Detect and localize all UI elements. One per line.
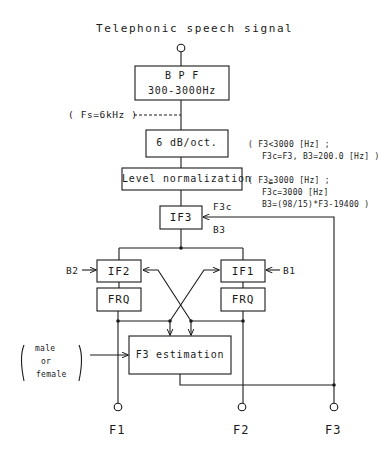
feedback-f1-to-if2 bbox=[143, 270, 191, 321]
bpf-label-line1: B P F bbox=[135, 70, 229, 81]
output-label-f3: F3 bbox=[325, 423, 341, 437]
if1-label: IF1 bbox=[221, 265, 265, 278]
feedback-f2-to-if1 bbox=[170, 270, 219, 321]
sampling-rate-note: ( Fs=6kHz ) bbox=[68, 109, 138, 120]
bpf-label-line2: 300-3000Hz bbox=[135, 85, 229, 96]
f3c-label: F3c bbox=[213, 201, 232, 212]
output-label-f1: F1 bbox=[109, 423, 125, 437]
rule2-line1: ( F3≧3000 [Hz] ; bbox=[248, 175, 330, 186]
wire-f3-output bbox=[180, 374, 334, 385]
if2-label: IF2 bbox=[97, 265, 141, 278]
level-normalization-label: Level normalization bbox=[122, 173, 242, 184]
output-label-f2: F2 bbox=[233, 423, 249, 437]
b2-label: B2 bbox=[66, 265, 79, 276]
preemphasis-label: 6 dB/oct. bbox=[146, 137, 228, 148]
input-terminal bbox=[177, 44, 185, 52]
diagram-title: Telephonic speech signal bbox=[96, 22, 293, 35]
rule2-line2: F3c=3000 [Hz] bbox=[262, 187, 329, 198]
rule2-line3: B3=(98/15)*F3-19400 ) bbox=[262, 199, 369, 210]
output-terminal-f3 bbox=[330, 403, 338, 411]
frq-left-label: FRQ bbox=[97, 293, 141, 306]
if3-label: IF3 bbox=[160, 211, 202, 224]
f3-estimation-label: F3 estimation bbox=[129, 349, 231, 360]
output-terminal-f1 bbox=[114, 403, 122, 411]
frq-right-label: FRQ bbox=[221, 293, 265, 306]
b3-label: B3 bbox=[213, 224, 226, 235]
gender-or: or bbox=[41, 356, 51, 367]
rule1-line2: F3c=F3, B3=200.0 [Hz] ) bbox=[262, 151, 380, 162]
gender-female: female bbox=[36, 369, 67, 380]
gender-male: male bbox=[35, 343, 55, 354]
rule1-line1: ( F3<3000 [Hz] ; bbox=[248, 139, 330, 150]
output-terminal-f2 bbox=[238, 403, 246, 411]
b1-label: B1 bbox=[283, 265, 296, 276]
